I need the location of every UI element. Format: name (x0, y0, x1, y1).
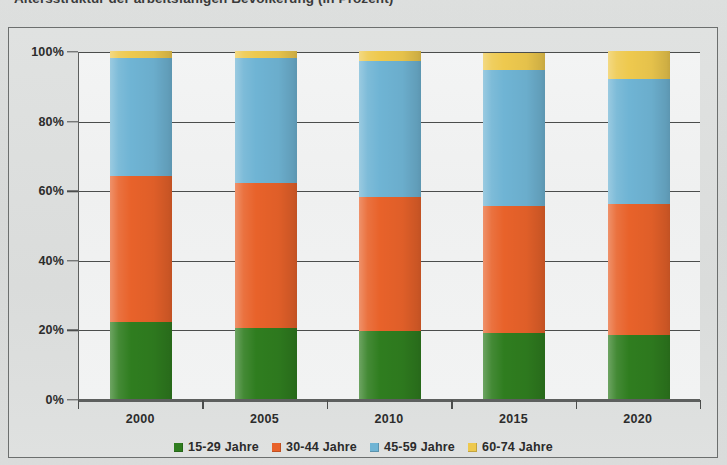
bar-segment[interactable] (359, 197, 421, 331)
bar-segment[interactable] (110, 176, 172, 322)
legend-item[interactable]: 60-74 Jahre (468, 440, 553, 454)
bar-segment[interactable] (483, 70, 545, 206)
bar-segment-shading (235, 58, 297, 183)
bar-segment-shading (483, 206, 545, 333)
bar-group[interactable] (608, 52, 670, 399)
bar-segment-shading (359, 331, 421, 399)
bar-segment[interactable] (483, 333, 545, 399)
bar-segment-shading (359, 61, 421, 197)
bar-segment-shading (110, 58, 172, 176)
bar-segment[interactable] (110, 51, 172, 58)
legend-swatch (370, 443, 379, 452)
x-tick-label: 2015 (499, 412, 528, 426)
bar-segment[interactable] (359, 61, 421, 197)
bar-segment[interactable] (110, 58, 172, 176)
bar-segment-shading (235, 183, 297, 327)
bar-segment[interactable] (110, 322, 172, 399)
legend-item[interactable]: 45-59 Jahre (370, 440, 455, 454)
x-tick-mark (451, 400, 452, 409)
x-tick-mark (576, 400, 577, 409)
x-tick-label: 2005 (250, 412, 279, 426)
bar-segment[interactable] (483, 53, 545, 70)
y-tick-label: 60% (38, 184, 64, 198)
bar-segment-shading (483, 70, 545, 206)
stacked-bar[interactable] (110, 52, 172, 399)
bar-segment-shading (608, 79, 670, 204)
x-tick-mark (202, 400, 203, 409)
bar-segment[interactable] (608, 51, 670, 79)
y-tick-mark (67, 121, 78, 122)
legend-label: 45-59 Jahre (384, 440, 455, 454)
bar-segment[interactable] (235, 58, 297, 183)
bar-segment[interactable] (235, 183, 297, 327)
y-tick-label: 100% (31, 45, 64, 59)
bar-series-container (79, 52, 700, 399)
x-axis-line (78, 400, 700, 402)
bar-group[interactable] (110, 52, 172, 399)
chart-legend: 15-29 Jahre30-44 Jahre45-59 Jahre60-74 J… (0, 440, 727, 454)
bar-segment[interactable] (235, 328, 297, 399)
bar-segment[interactable] (359, 331, 421, 399)
bar-segment[interactable] (608, 204, 670, 335)
bar-segment-shading (110, 51, 172, 58)
y-tick-label: 80% (38, 115, 64, 129)
chart-title: Altersstruktur der arbeitsfähigen Bevölk… (14, 0, 634, 6)
bar-segment-shading (608, 51, 670, 79)
plot-area (78, 52, 700, 400)
x-tick-mark (700, 400, 701, 409)
bar-segment[interactable] (608, 335, 670, 399)
x-tick-mark (78, 400, 79, 409)
legend-swatch (174, 443, 183, 452)
bar-segment-shading (110, 322, 172, 399)
bar-segment-shading (608, 335, 670, 399)
bar-segment-shading (483, 333, 545, 399)
stacked-bar[interactable] (608, 52, 670, 399)
y-axis: 0%20%40%60%80%100% (0, 52, 78, 400)
stacked-bar[interactable] (483, 52, 545, 399)
bar-segment-shading (235, 51, 297, 58)
bar-group[interactable] (359, 52, 421, 399)
y-tick-mark (67, 330, 78, 331)
legend-swatch (468, 443, 477, 452)
x-tick-label: 2000 (126, 412, 155, 426)
y-tick-label: 0% (46, 393, 64, 407)
x-tick-label: 2020 (623, 412, 652, 426)
bar-group[interactable] (483, 52, 545, 399)
y-tick-mark (67, 51, 78, 52)
legend-item[interactable]: 30-44 Jahre (272, 440, 357, 454)
bar-segment[interactable] (235, 51, 297, 58)
bar-segment[interactable] (483, 206, 545, 333)
legend-swatch (272, 443, 281, 452)
y-tick-mark (67, 399, 78, 400)
bar-segment-shading (235, 328, 297, 399)
y-tick-label: 40% (38, 254, 64, 268)
y-tick-mark (67, 260, 78, 261)
bar-segment-shading (359, 197, 421, 331)
legend-label: 30-44 Jahre (286, 440, 357, 454)
bar-group[interactable] (235, 52, 297, 399)
stacked-bar[interactable] (359, 52, 421, 399)
x-tick-label: 2010 (374, 412, 403, 426)
bar-segment-shading (483, 53, 545, 70)
legend-label: 15-29 Jahre (188, 440, 259, 454)
bar-segment-shading (608, 204, 670, 335)
legend-label: 60-74 Jahre (482, 440, 553, 454)
y-tick-label: 20% (38, 323, 64, 337)
bar-segment-shading (110, 176, 172, 322)
x-axis: 20002005201020152020 (78, 400, 700, 430)
stacked-bar[interactable] (235, 52, 297, 399)
bar-segment-shading (359, 51, 421, 61)
y-tick-mark (67, 190, 78, 191)
legend-item[interactable]: 15-29 Jahre (174, 440, 259, 454)
bar-segment[interactable] (359, 51, 421, 61)
bar-segment[interactable] (608, 79, 670, 204)
x-tick-mark (327, 400, 328, 409)
